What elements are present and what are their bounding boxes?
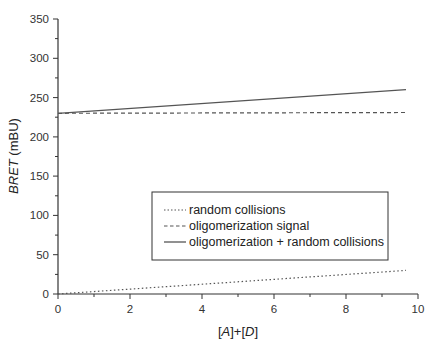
y-tick-label: 100 xyxy=(30,209,49,221)
y-axis-ticks xyxy=(53,19,58,294)
legend: random collisions oligomerization signal… xyxy=(152,192,388,260)
y-tick-label: 50 xyxy=(36,249,49,261)
y-axis-tick-labels: 0 50 100 150 200 250 300 350 xyxy=(30,13,49,300)
y-tick-label: 150 xyxy=(30,170,49,182)
series-random-collisions xyxy=(58,270,406,294)
x-tick-label: 0 xyxy=(55,303,61,315)
y-tick-label: 350 xyxy=(30,13,49,25)
y-tick-label: 250 xyxy=(30,92,49,104)
series-oligomerization-signal xyxy=(58,113,406,114)
x-tick-label: 8 xyxy=(343,303,349,315)
x-axis-ticks xyxy=(58,294,418,299)
x-axis-tick-labels: 0 2 4 6 8 10 xyxy=(55,303,425,315)
y-tick-label: 0 xyxy=(43,288,49,300)
x-tick-label: 2 xyxy=(127,303,133,315)
legend-label: oligomerization + random collisions xyxy=(189,235,384,249)
y-tick-label: 200 xyxy=(30,131,49,143)
x-tick-label: 6 xyxy=(271,303,277,315)
series-oligomerization-plus-random xyxy=(58,90,406,114)
x-tick-label: 4 xyxy=(199,303,206,315)
bret-line-chart: 0 50 100 150 200 250 300 350 0 2 4 6 8 1… xyxy=(0,0,434,345)
legend-label: random collisions xyxy=(189,203,286,217)
x-axis-title: [A]+[D] xyxy=(218,324,258,339)
y-tick-label: 300 xyxy=(30,52,49,64)
legend-label: oligomerization signal xyxy=(189,219,309,233)
y-axis-title: BRET (mBU) xyxy=(6,118,21,194)
x-tick-label: 10 xyxy=(412,303,425,315)
